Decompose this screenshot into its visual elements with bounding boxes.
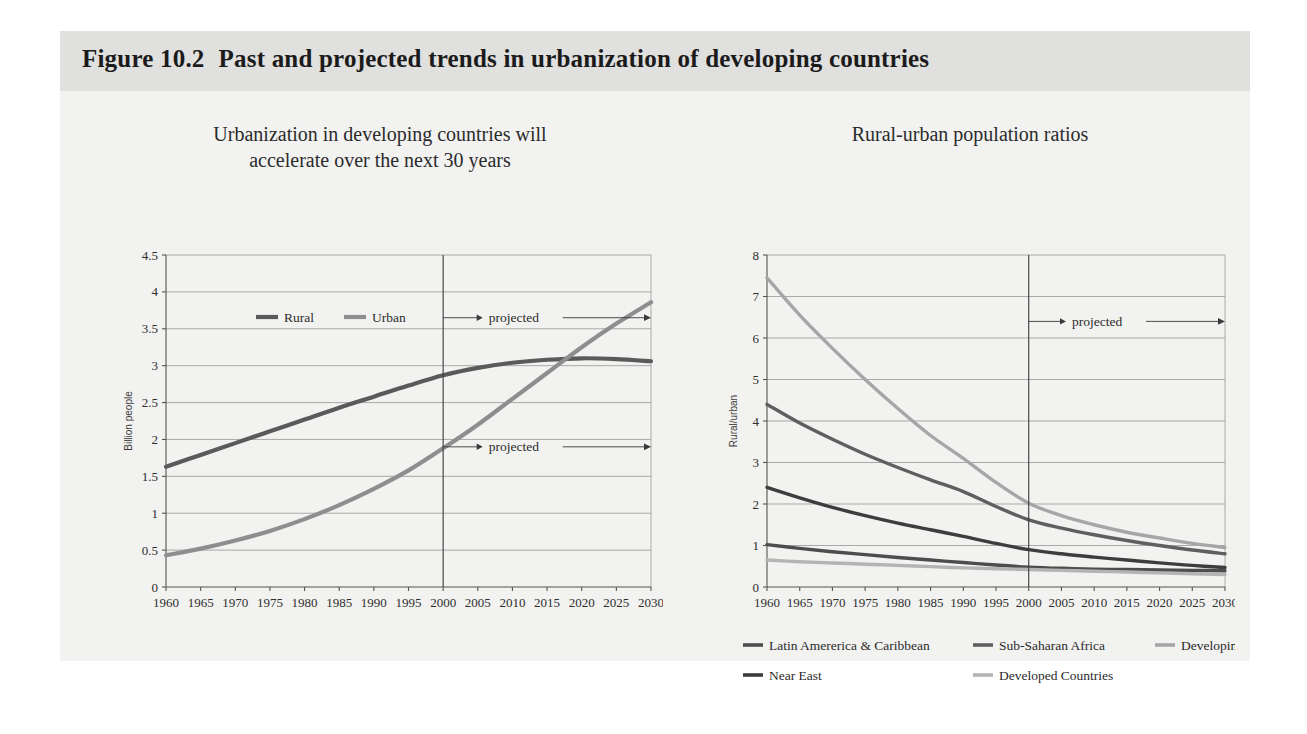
x-axis-tick-label: 2010 [1081, 595, 1107, 610]
x-axis-tick-label: 2030 [638, 595, 663, 610]
y-axis-tick-label: 4 [753, 414, 760, 429]
x-axis-tick-label: 2000 [430, 595, 456, 610]
y-axis-tick-label: 1 [152, 506, 159, 521]
y-axis-tick-label: 0 [753, 580, 760, 595]
y-axis-tick-label: 2 [152, 432, 159, 447]
x-axis-tick-label: 1970 [819, 595, 845, 610]
y-axis-title: Billion people [123, 391, 134, 451]
annotation-label: projected [489, 439, 539, 454]
figure-card: Figure 10.2Past and projected trends in … [60, 31, 1250, 661]
y-axis-tick-label: 6 [753, 331, 760, 346]
legend-label: Urban [372, 310, 406, 325]
y-axis-tick-label: 5 [753, 372, 760, 387]
x-axis-tick-label: 1975 [257, 595, 283, 610]
series-line-urban [166, 302, 651, 555]
left-chart-subtitle: Urbanization in developing countries wil… [70, 121, 690, 173]
left-chart-plot: 00.511.522.533.544.519601965197019751980… [118, 241, 663, 631]
annotation-arrow-right-icon [644, 314, 651, 321]
right-subtitle-line-1: Rural-urban population ratios [690, 121, 1250, 147]
x-axis-tick-label: 2030 [1212, 595, 1235, 610]
figure-title: Figure 10.2Past and projected trends in … [82, 45, 929, 73]
left-subtitle-line-2: accelerate over the next 30 years [70, 147, 690, 173]
x-axis-tick-label: 1985 [918, 595, 944, 610]
chart-legend: Latin Amererica & CaribbeanSub-Saharan A… [743, 638, 1235, 683]
right-chart-panel: Rural-urban population ratios 0123456781… [690, 91, 1250, 661]
right-chart-subtitle: Rural-urban population ratios [690, 121, 1250, 147]
series-line-sub-saharan-africa [767, 404, 1225, 553]
x-axis-tick-label: 1980 [292, 595, 318, 610]
x-axis-tick-label: 1975 [852, 595, 878, 610]
y-axis-tick-label: 3.5 [142, 321, 158, 336]
annotation-arrow-left-icon [477, 315, 483, 321]
y-axis-tick-label: 2 [753, 497, 760, 512]
annotation-label: projected [1072, 314, 1122, 329]
x-axis-tick-label: 1995 [396, 595, 422, 610]
left-chart-svg: 00.511.522.533.544.519601965197019751980… [118, 241, 663, 631]
y-axis-title: Rural/urban [728, 395, 739, 447]
figure-title-text: Past and projected trends in urbanizatio… [219, 45, 930, 72]
x-axis-tick-label: 2020 [569, 595, 595, 610]
x-axis-tick-label: 1980 [885, 595, 911, 610]
x-axis-tick-label: 2025 [603, 595, 629, 610]
legend-label: Sub-Saharan Africa [999, 638, 1105, 653]
legend-label: Developed Countries [999, 668, 1113, 683]
legend-label: Latin Amererica & Caribbean [769, 638, 930, 653]
x-axis-tick-label: 1985 [326, 595, 352, 610]
x-axis-tick-label: 1970 [222, 595, 248, 610]
chart-legend: RuralUrban [256, 310, 406, 325]
annotation-arrow-left-icon [477, 444, 483, 450]
right-chart-plot: 0123456781960196519701975198019851990199… [725, 241, 1235, 631]
left-chart-panel: Urbanization in developing countries wil… [70, 91, 690, 661]
x-axis-tick-label: 1990 [361, 595, 387, 610]
x-axis-tick-label: 1960 [754, 595, 780, 610]
y-axis-tick-label: 1.5 [142, 469, 158, 484]
annotation-arrow-right-icon [644, 443, 651, 450]
figure-number: Figure 10.2 [82, 45, 219, 72]
y-axis-tick-label: 7 [753, 289, 760, 304]
series-line-rural [166, 358, 651, 466]
projected-annotation: projected [443, 439, 651, 454]
x-axis-tick-label: 1960 [153, 595, 179, 610]
legend-label: Rural [284, 310, 314, 325]
y-axis-tick-label: 0 [152, 580, 159, 595]
legend-label: Near East [769, 668, 822, 683]
projected-annotation: projected [1029, 314, 1225, 329]
x-axis-tick-label: 2025 [1179, 595, 1205, 610]
x-axis-tick-label: 2010 [499, 595, 525, 610]
x-axis-tick-label: 2000 [1016, 595, 1042, 610]
x-axis-tick-label: 1995 [983, 595, 1009, 610]
x-axis-tick-label: 2015 [534, 595, 560, 610]
annotation-arrow-right-icon [1218, 318, 1225, 325]
series-line-latin-amererica-caribbean [767, 545, 1225, 571]
y-axis-tick-label: 8 [753, 248, 760, 263]
annotation-arrow-left-icon [1060, 318, 1066, 324]
legend-label: Developing Asia [1181, 638, 1235, 653]
x-axis-tick-label: 2020 [1147, 595, 1173, 610]
x-axis-tick-label: 1990 [950, 595, 976, 610]
x-axis-tick-label: 2005 [1048, 595, 1074, 610]
series-line-near-east [767, 487, 1225, 567]
x-axis-tick-label: 2005 [465, 595, 491, 610]
y-axis-tick-label: 3 [753, 455, 760, 470]
right-chart-svg: 0123456781960196519701975198019851990199… [725, 241, 1235, 691]
y-axis-tick-label: 0.5 [142, 543, 158, 558]
y-axis-tick-label: 4 [152, 284, 159, 299]
y-axis-tick-label: 3 [152, 358, 159, 373]
annotation-label: projected [489, 310, 539, 325]
y-axis-tick-label: 4.5 [142, 248, 158, 263]
x-axis-tick-label: 2015 [1114, 595, 1140, 610]
y-axis-tick-label: 2.5 [142, 395, 158, 410]
y-axis-tick-label: 1 [753, 538, 760, 553]
x-axis-tick-label: 1965 [188, 595, 214, 610]
x-axis-tick-label: 1965 [787, 595, 813, 610]
left-subtitle-line-1: Urbanization in developing countries wil… [70, 121, 690, 147]
